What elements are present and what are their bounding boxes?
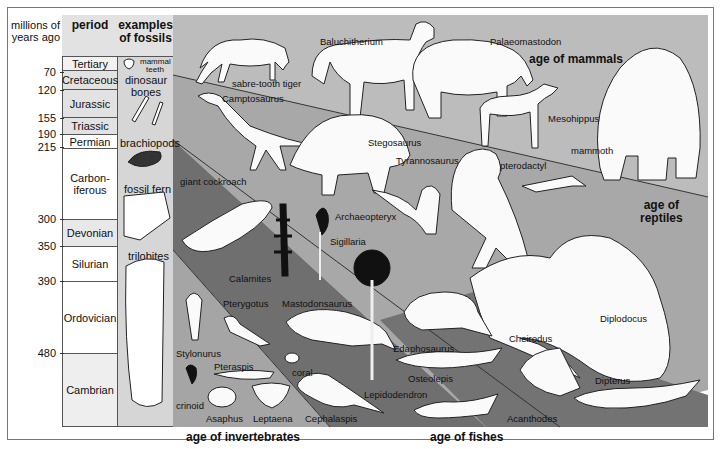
- year-tick: [60, 134, 64, 135]
- animal-label-pterodactyl: pterodactyl: [500, 160, 546, 171]
- year-tick: [60, 246, 64, 247]
- fossil-label: brachiopods: [120, 137, 180, 149]
- year-mark: 300: [6, 213, 56, 225]
- period-row: Tertiary: [63, 57, 117, 71]
- period-row: Cretaceous: [63, 71, 117, 90]
- period-row: Permian: [63, 135, 117, 149]
- animal-label-lepidodendron: Lepidodendron: [364, 389, 427, 400]
- year-tick: [60, 90, 64, 91]
- period-row: Devonian: [63, 220, 117, 247]
- year-tick: [60, 147, 64, 148]
- period-header: period: [62, 19, 118, 32]
- animal-label-mammoth: mammoth: [571, 145, 613, 156]
- animal-label-pterygotus: Pterygotus: [223, 298, 268, 309]
- age-of-reptiles-label: age of reptiles: [640, 199, 683, 225]
- coral-figure: [285, 353, 299, 363]
- animal-label-edaphosaurus: Edaphosaurus: [393, 343, 454, 354]
- fossil-label: fossil fern: [124, 183, 171, 195]
- year-mark: 350: [6, 240, 56, 252]
- year-tick: [60, 72, 64, 73]
- animal-label-camptosaurus: Camptosaurus: [222, 93, 284, 104]
- animal-label-crinoid: crinoid: [176, 400, 204, 411]
- animal-label-leptaena: Leptaena: [253, 413, 293, 424]
- age-of-mammals-label: age of mammals: [529, 52, 623, 66]
- period-row: Triassic: [63, 118, 117, 135]
- animal-label-stylonurus: Stylonurus: [176, 348, 221, 359]
- animal-label-tyrannosaurus: Tyrannosaurus: [396, 155, 459, 166]
- period-row: Ordovician: [63, 282, 117, 354]
- animal-label-asaphus: Asaphus: [206, 413, 243, 424]
- fossil-label: dinosaur bones: [122, 74, 170, 98]
- fossil-label: mammal teeth: [140, 58, 170, 74]
- animal-label-dipterus: Dipterus: [595, 375, 630, 386]
- fossils-header: examples of fossils: [118, 19, 173, 45]
- fossil-label: trilobites: [128, 250, 169, 262]
- period-row: Carbon- iferous: [63, 149, 117, 220]
- animal-label-osteolepis: Osteolepis: [408, 373, 453, 384]
- year-mark: 155: [6, 112, 56, 124]
- year-tick: [60, 219, 64, 220]
- animal-label-cephalaspis: Cephalaspis: [305, 413, 357, 424]
- animal-label-pteraspis: Pteraspis: [214, 361, 254, 372]
- year-mark: 70: [6, 66, 56, 78]
- animal-label-mesohippus: Mesohippus: [548, 113, 599, 124]
- year-mark: 215: [6, 141, 56, 153]
- animal-label-giant-cockroach: giant cockroach: [180, 176, 247, 187]
- animal-label-archaeopteryx: Archaeopteryx: [335, 211, 396, 222]
- animal-label-sigillaria: Sigillaria: [330, 236, 366, 247]
- age-of-fishes-label: age of fishes: [430, 430, 503, 444]
- years-header: millions of years ago: [10, 19, 60, 43]
- animal-label-acanthodes: Acanthodes: [507, 413, 557, 424]
- year-mark: 480: [6, 347, 56, 359]
- animal-label-cheirodus: Cheirodus: [509, 333, 552, 344]
- animal-label-palaeomastodon: Palaeomastodon: [490, 36, 561, 47]
- year-tick: [60, 281, 64, 282]
- year-mark: 120: [6, 84, 56, 96]
- year-tick: [60, 118, 64, 119]
- period-row: Cambrian: [63, 354, 117, 427]
- year-mark: 390: [6, 275, 56, 287]
- animal-label-calamites: Calamites: [229, 273, 271, 284]
- animal-label-mastodonsaurus: Mastodonsaurus: [282, 298, 352, 309]
- animal-label-sabre-tooth-tiger: sabre-tooth tiger: [232, 78, 301, 89]
- period-row: Jurassic: [63, 90, 117, 118]
- animal-label-baluchitherium: Baluchitherium: [320, 36, 383, 47]
- animal-label-coral: coral: [292, 367, 313, 378]
- animal-label-stegosaurus: Stegosaurus: [368, 137, 421, 148]
- animal-label-diplodocus: Diplodocus: [600, 313, 647, 324]
- age-of-invertebrates-label: age of invertebrates: [186, 430, 300, 444]
- year-mark: 190: [6, 128, 56, 140]
- asaphus-figure: [208, 387, 236, 407]
- period-row: Silurian: [63, 247, 117, 282]
- year-tick: [60, 353, 64, 354]
